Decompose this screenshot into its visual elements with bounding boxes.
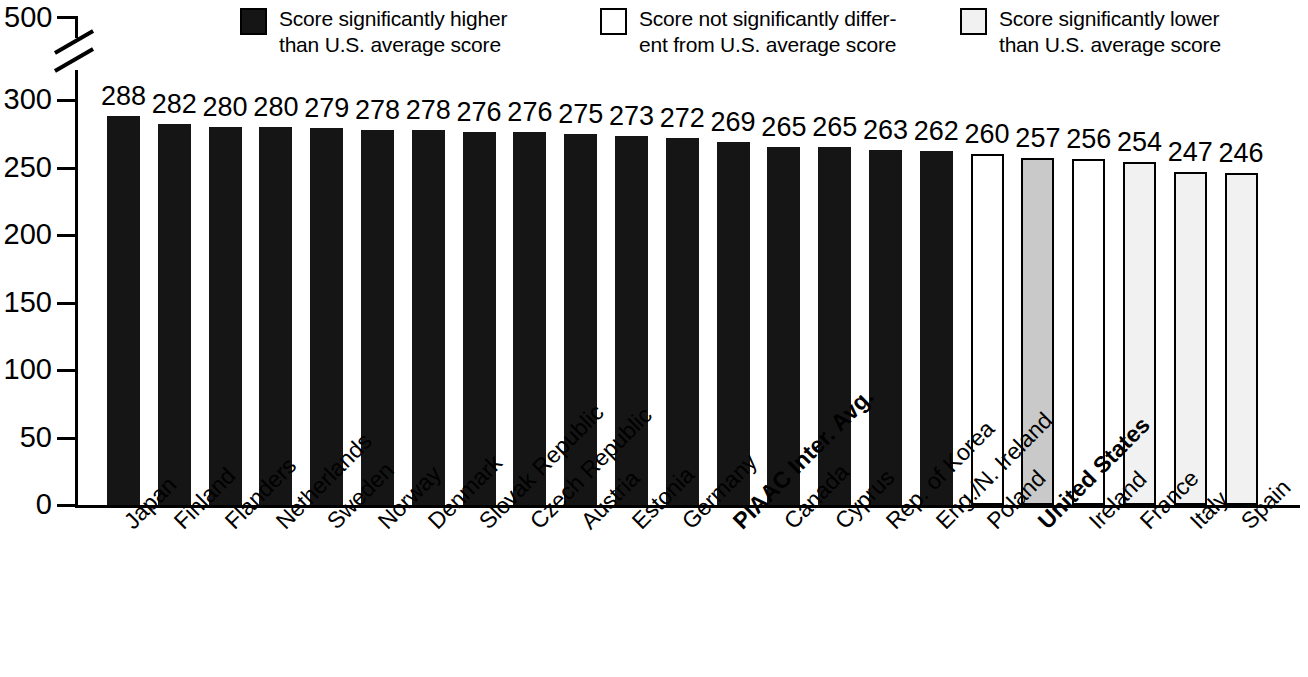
legend-label-higher: Score significantly higher than U.S. ave… bbox=[279, 6, 507, 58]
y-axis-tick bbox=[57, 302, 77, 305]
bar-netherlands bbox=[259, 127, 292, 505]
y-axis-tick-label: 200 bbox=[0, 220, 52, 249]
y-axis-top-tick bbox=[57, 16, 77, 19]
legend-swatch-white-square bbox=[600, 8, 627, 35]
bar-value-label: 276 bbox=[454, 99, 505, 126]
y-axis-top-label: 500 bbox=[4, 3, 52, 32]
bar-value-label: 263 bbox=[860, 117, 911, 144]
bar-value-label: 265 bbox=[809, 114, 860, 141]
bar-spain bbox=[1225, 173, 1258, 505]
y-axis-tick-label: 0 bbox=[0, 490, 52, 519]
bar-value-label: 275 bbox=[555, 101, 606, 128]
bar-japan bbox=[107, 116, 140, 505]
y-axis-top-stub bbox=[75, 16, 78, 38]
bar-value-label: 280 bbox=[250, 94, 301, 121]
bar-value-label: 260 bbox=[962, 121, 1013, 148]
bar-value-label: 278 bbox=[352, 97, 403, 124]
bar-value-label: 278 bbox=[403, 97, 454, 124]
y-axis-tick-label: 250 bbox=[0, 153, 52, 182]
bar-flanders bbox=[209, 127, 242, 505]
bar-value-label: 262 bbox=[911, 118, 962, 145]
y-axis-tick-label: 50 bbox=[0, 423, 52, 452]
bar-value-label: 273 bbox=[606, 103, 657, 130]
legend-item-higher: Score significantly higher than U.S. ave… bbox=[240, 6, 507, 58]
bar-value-label: 280 bbox=[200, 94, 251, 121]
bar-value-label: 276 bbox=[504, 99, 555, 126]
bar-value-label: 269 bbox=[708, 109, 759, 136]
legend-item-lower: Score significantly lower than U.S. aver… bbox=[960, 6, 1221, 58]
legend-label-lower: Score significantly lower than U.S. aver… bbox=[999, 6, 1221, 58]
bar-value-label: 254 bbox=[1114, 129, 1165, 156]
y-axis-tick bbox=[57, 504, 77, 507]
bar-value-label: 288 bbox=[98, 83, 149, 110]
bar-value-label: 247 bbox=[1165, 139, 1216, 166]
bar-value-label: 257 bbox=[1012, 125, 1063, 152]
legend-label-not-different: Score not significantly differ- ent from… bbox=[639, 6, 896, 58]
chart-page: Score significantly higher than U.S. ave… bbox=[0, 0, 1308, 677]
bar-value-label: 272 bbox=[657, 105, 708, 132]
y-axis-tick bbox=[57, 234, 77, 237]
y-axis-line bbox=[75, 70, 78, 508]
legend-swatch-light-gray-square bbox=[960, 8, 987, 35]
bar-finland bbox=[158, 124, 191, 505]
chart-legend: Score significantly higher than U.S. ave… bbox=[240, 4, 1300, 66]
y-axis-tick bbox=[57, 167, 77, 170]
y-axis-tick bbox=[57, 369, 77, 372]
bar-value-label: 246 bbox=[1216, 140, 1267, 167]
y-axis-tick bbox=[57, 437, 77, 440]
bar-germany bbox=[666, 138, 699, 505]
bar-value-label: 256 bbox=[1063, 126, 1114, 153]
bar-italy bbox=[1174, 172, 1207, 505]
y-axis-tick-label: 150 bbox=[0, 288, 52, 317]
bar-value-label: 265 bbox=[758, 114, 809, 141]
y-axis-tick-label: 100 bbox=[0, 355, 52, 384]
bar-value-label: 279 bbox=[301, 95, 352, 122]
legend-swatch-black-square bbox=[240, 8, 267, 35]
y-axis-tick-label: 300 bbox=[0, 85, 52, 114]
bar-value-label: 282 bbox=[149, 91, 200, 118]
bar-slovak-republic bbox=[463, 132, 496, 505]
y-axis-tick bbox=[57, 99, 77, 102]
legend-item-not-different: Score not significantly differ- ent from… bbox=[600, 6, 896, 58]
bar-denmark bbox=[412, 130, 445, 505]
bar-rep-of-korea bbox=[869, 150, 902, 505]
